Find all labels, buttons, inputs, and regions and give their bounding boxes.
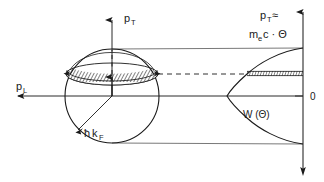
p-l-axis-label: p L: [16, 80, 27, 95]
right-caption-m-sub: e: [258, 34, 262, 43]
bottom-projection-line: [112, 143, 303, 144]
right-caption-approx: ≈: [272, 9, 278, 21]
right-caption-m: m: [249, 28, 258, 40]
right-caption-p: p: [260, 9, 266, 21]
p-t-axis-label: p T: [124, 12, 136, 27]
fermi-radius-sub: F: [99, 133, 104, 142]
figure-container: p T p L p T ≈ m e c · Θ ħ k F W (Θ) 0: [0, 0, 324, 182]
p-l-axis-label-sub: L: [23, 86, 27, 95]
fermi-radius-line: [78, 96, 112, 130]
fermi-radius-hbar: ħ: [84, 127, 90, 139]
p-t-axis-label-main: p: [124, 12, 130, 24]
p-l-axis-label-main: p: [16, 80, 22, 92]
momentum-space-diagram: p T p L p T ≈ m e c · Θ ħ k F W (Θ) 0: [0, 0, 324, 182]
right-caption-rest: c · Θ: [263, 28, 287, 40]
top-projection-line: [112, 48, 303, 49]
right-axis-caption: p T ≈ m e c · Θ: [249, 9, 287, 43]
p-t-axis-label-sub: T: [131, 18, 136, 27]
w-theta-label: W (Θ): [243, 109, 270, 120]
zero-label: 0: [310, 91, 316, 102]
fermi-radius-k: k: [92, 127, 98, 139]
